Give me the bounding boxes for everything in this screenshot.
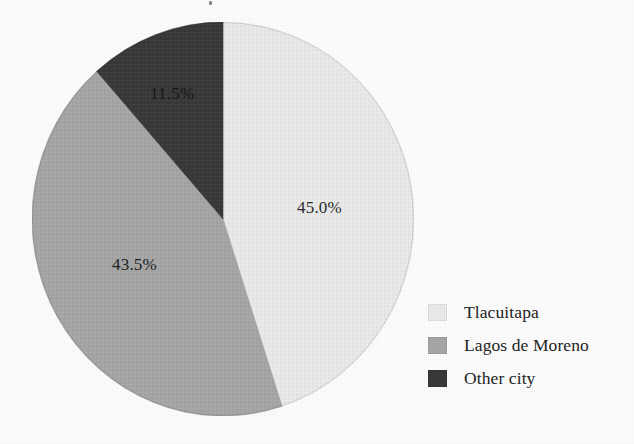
legend-label-other-city: Other city — [464, 368, 535, 389]
legend-swatch-other-city — [428, 370, 447, 387]
pie-chart-graphic — [32, 22, 414, 416]
legend-swatch-lagos-de-moreno — [428, 337, 447, 354]
pie-dither-overlay — [32, 22, 414, 416]
chart-legend: Tlacuitapa Lagos de Moreno Other city — [428, 296, 589, 395]
legend-label-tlacuitapa: Tlacuitapa — [464, 302, 539, 323]
scan-artifact — [209, 1, 212, 5]
legend-swatch-tlacuitapa — [428, 304, 447, 321]
pie-label-lagos-de-moreno: 43.5% — [112, 255, 157, 275]
legend-item-lagos-de-moreno: Lagos de Moreno — [428, 329, 589, 362]
pie-label-other-city: 11.5% — [150, 84, 194, 104]
legend-item-tlacuitapa: Tlacuitapa — [428, 296, 589, 329]
pie-svg — [32, 22, 414, 416]
legend-item-other-city: Other city — [428, 362, 589, 395]
pie-chart-figure: 45.0% 43.5% 11.5% Tlacuitapa Lagos de Mo… — [0, 0, 634, 444]
legend-label-lagos-de-moreno: Lagos de Moreno — [464, 335, 589, 356]
pie-label-tlacuitapa: 45.0% — [297, 198, 342, 218]
